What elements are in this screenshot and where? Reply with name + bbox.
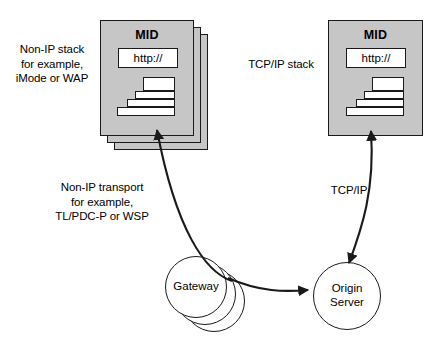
label-tcpip-stack: TCP/IP stack (238, 57, 324, 72)
arrow-gateway-to-origin-server (228, 278, 308, 291)
label-tcpip-transport: TCP/IP (326, 183, 372, 198)
arrow-gateway-to-mid-left (157, 130, 232, 281)
label-nonip-stack: Non-IP stack for example, iMode or WAP (4, 42, 100, 86)
label-nonip-transport: Non-IP transport for example, TL/PDC-P o… (36, 180, 168, 224)
diagram-canvas: MID http:// MID http:// Gateway Origin S… (0, 0, 445, 340)
